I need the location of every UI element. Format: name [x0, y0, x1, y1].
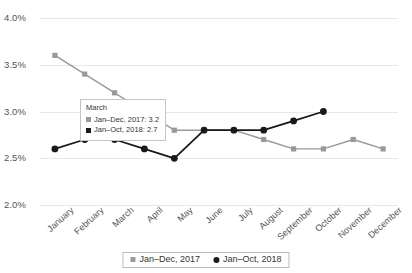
line-chart: 4.0%3.5%3.0%2.5%2.0% JanuaryFebruaryMarc…	[0, 0, 412, 273]
x-axis-labels: JanuaryFebruaryMarchAprilMayJuneJulyAugu…	[40, 205, 398, 253]
legend-square-marker-icon	[130, 257, 135, 262]
x-axis-tick-label: February	[72, 205, 105, 237]
data-point-square-marker[interactable]	[82, 72, 87, 77]
tooltip-row-2017: Jan–Dec, 2017: 3.2	[86, 115, 159, 126]
legend-item-2017[interactable]: Jan–Dec, 2017	[130, 255, 200, 264]
data-point-square-marker[interactable]	[351, 137, 356, 142]
y-axis-tick-label: 4.0%	[4, 12, 40, 23]
tooltip-label-2018: Jan–Oct, 2018: 2.7	[94, 125, 157, 136]
data-point-square-marker[interactable]	[172, 128, 177, 133]
data-point-square-marker[interactable]	[112, 90, 117, 95]
data-point-circle-marker[interactable]	[141, 146, 148, 153]
data-point-circle-marker[interactable]	[231, 127, 238, 134]
data-point-circle-marker[interactable]	[171, 155, 178, 162]
legend-item-2018[interactable]: Jan–Oct, 2018	[213, 255, 282, 264]
tooltip-title: March	[86, 103, 159, 114]
x-axis-tick-label: August	[257, 205, 285, 231]
x-axis-tick-label: June	[204, 205, 225, 226]
data-point-circle-marker[interactable]	[201, 127, 208, 134]
y-axis-tick-label: 3.5%	[4, 59, 40, 70]
data-point-square-marker[interactable]	[261, 137, 266, 142]
x-axis-tick-label: March	[110, 205, 135, 229]
x-axis-tick-label: January	[45, 205, 75, 234]
tooltip-label-2017: Jan–Dec, 2017: 3.2	[94, 115, 159, 126]
x-axis-tick-label: May	[176, 205, 195, 224]
y-axis-tick-label: 2.5%	[4, 152, 40, 163]
data-point-circle-marker[interactable]	[320, 108, 327, 115]
data-point-circle-marker[interactable]	[52, 146, 59, 153]
x-axis-tick-label: July	[236, 205, 255, 223]
tooltip-swatch-icon-2018	[86, 128, 91, 133]
data-point-circle-marker[interactable]	[260, 127, 267, 134]
tooltip-swatch-icon-2017	[86, 117, 91, 122]
data-point-square-marker[interactable]	[321, 146, 326, 151]
x-axis-tick-label: April	[145, 205, 165, 224]
data-point-square-marker[interactable]	[52, 53, 57, 58]
data-point-square-marker[interactable]	[291, 146, 296, 151]
data-point-circle-marker[interactable]	[290, 118, 297, 125]
chart-tooltip: March Jan–Dec, 2017: 3.2 Jan–Oct, 2018: …	[80, 99, 166, 141]
tooltip-row-2018: Jan–Oct, 2018: 2.7	[86, 125, 159, 136]
legend-circle-marker-icon	[213, 257, 219, 263]
data-point-square-marker[interactable]	[381, 146, 386, 151]
y-axis-tick-label: 3.0%	[4, 106, 40, 117]
y-axis-tick-label: 2.0%	[4, 199, 40, 210]
chart-legend: Jan–Dec, 2017 Jan–Oct, 2018	[122, 252, 289, 268]
legend-label-2018: Jan–Oct, 2018	[223, 255, 282, 264]
legend-label-2017: Jan–Dec, 2017	[139, 255, 200, 264]
